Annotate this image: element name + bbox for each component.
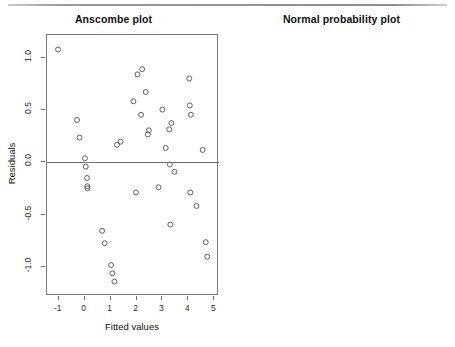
data-point bbox=[205, 254, 210, 259]
y-axis-tick-label: -1.0 bbox=[23, 255, 33, 275]
x-axis-tick-label: 2 bbox=[126, 303, 146, 313]
data-point bbox=[102, 241, 107, 246]
x-axis-tick-label: 1 bbox=[100, 303, 120, 313]
data-point bbox=[172, 169, 177, 174]
panel-anscombe: Anscombe plot -1.0-0.50.00.51.0-1012345 … bbox=[0, 0, 227, 347]
x-axis-tick-label: 3 bbox=[151, 303, 171, 313]
y-axis-tick bbox=[41, 57, 45, 58]
data-point bbox=[168, 222, 173, 227]
data-point bbox=[112, 279, 117, 284]
data-point bbox=[139, 112, 144, 117]
data-point bbox=[77, 135, 82, 140]
x-axis-tick bbox=[58, 296, 59, 300]
plot-area-anscombe bbox=[46, 34, 218, 295]
data-point bbox=[140, 67, 145, 72]
data-point bbox=[163, 145, 168, 150]
y-axis-tick bbox=[41, 109, 45, 110]
page-title-normal-probability: Normal probability plot bbox=[228, 13, 455, 25]
page-title-anscombe: Anscombe plot bbox=[0, 13, 227, 25]
x-axis-tick-label: 0 bbox=[74, 303, 94, 313]
data-point bbox=[160, 107, 165, 112]
data-point bbox=[110, 271, 115, 276]
x-axis-tick bbox=[213, 296, 214, 300]
data-point bbox=[169, 121, 174, 126]
x-axis-tick bbox=[187, 296, 188, 300]
data-point bbox=[109, 263, 114, 268]
data-point bbox=[187, 103, 192, 108]
data-point bbox=[83, 164, 88, 169]
data-point bbox=[188, 190, 193, 195]
data-point bbox=[75, 117, 80, 122]
data-point bbox=[203, 240, 208, 245]
y-axis-tick-label: -0.5 bbox=[23, 203, 33, 223]
scan-bleed-artifact: ·· ···· ·· ···· ····· ·· ··· bbox=[18, 333, 318, 343]
data-point bbox=[188, 112, 193, 117]
scatter-canvas-anscombe bbox=[47, 35, 217, 294]
x-axis-tick-label: 5 bbox=[203, 303, 223, 313]
x-axis-tick bbox=[161, 296, 162, 300]
data-point bbox=[82, 156, 87, 161]
data-point bbox=[187, 76, 192, 81]
data-point bbox=[156, 185, 161, 190]
data-point bbox=[194, 203, 199, 208]
x-axis-tick-label: -1 bbox=[48, 303, 68, 313]
y-axis-tick-label: 1.0 bbox=[23, 46, 33, 66]
y-axis-tick bbox=[41, 266, 45, 267]
data-point bbox=[85, 175, 90, 180]
data-point bbox=[131, 99, 136, 104]
y-axis-title-anscombe: Residuals bbox=[6, 113, 17, 213]
data-point bbox=[100, 228, 105, 233]
data-point bbox=[200, 148, 205, 153]
panel-normal-probability: Normal probability plot -1.0-0.50.00.51.… bbox=[228, 0, 455, 347]
data-point bbox=[135, 72, 140, 77]
x-axis-tick bbox=[84, 296, 85, 300]
data-point bbox=[134, 190, 139, 195]
x-axis-tick bbox=[136, 296, 137, 300]
y-axis-tick-label: 0.5 bbox=[23, 98, 33, 118]
x-axis-title-anscombe: Fitted values bbox=[26, 321, 238, 332]
x-axis-tick bbox=[110, 296, 111, 300]
data-point bbox=[167, 127, 172, 132]
data-point bbox=[118, 139, 123, 144]
zero-reference-line bbox=[47, 162, 219, 163]
x-axis-tick-label: 4 bbox=[177, 303, 197, 313]
y-axis-tick-label: 0.0 bbox=[23, 150, 33, 170]
data-point bbox=[56, 47, 61, 52]
y-axis-tick bbox=[41, 214, 45, 215]
data-point bbox=[143, 89, 148, 94]
y-axis-tick bbox=[41, 161, 45, 162]
